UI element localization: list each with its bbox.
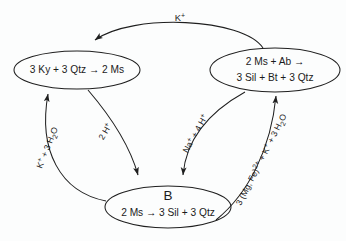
right-node-label-line2: 3 Sil + Bt + 3 Qtz: [236, 72, 313, 83]
svg-text:3 (Mg, Fe)2+ + K+ + 3 H2O: 3 (Mg, Fe)2+ + K+ + 3 H2O: [233, 111, 290, 207]
svg-text:2 H+: 2 H+: [95, 121, 114, 142]
svg-text:Na+ + 4 H+: Na+ + 4 H+: [179, 112, 210, 155]
label-k-3h2o: K+ + 3 H2O: [33, 125, 61, 170]
arrow-k-3h2o: [46, 94, 106, 201]
svg-text:K+ + 3 H2O: K+ + 3 H2O: [33, 125, 61, 170]
label-k-plus-sup: +: [181, 12, 185, 19]
label-k-plus: K+: [175, 12, 185, 24]
label-na-4h: Na+ + 4 H+: [179, 112, 210, 155]
label-2h-plus: 2 H+: [95, 121, 114, 142]
arrow-k-plus: [95, 22, 263, 48]
node-right[interactable]: 2 Ms + Ab → 3 Sil + Bt + 3 Qtz: [210, 48, 340, 92]
right-node-label-line1: 2 Ms + Ab →: [246, 56, 305, 67]
node-left[interactable]: 3 Ky + 3 Qtz → 2 Ms: [14, 51, 140, 89]
label-mgfe-k-3h2o: 3 (Mg, Fe)2+ + K+ + 3 H2O: [233, 111, 290, 207]
left-node-label: 3 Ky + 3 Qtz → 2 Ms: [30, 64, 124, 75]
right-node-ellipse: [210, 48, 340, 92]
node-bottom[interactable]: B 2 Ms → 3 Sil + 3 Qtz: [105, 186, 231, 228]
bottom-node-title: B: [163, 188, 172, 203]
bottom-node-label: 2 Ms → 3 Sil + 3 Qtz: [121, 207, 215, 218]
reaction-path-diagram: 3 Ky + 3 Qtz → 2 Ms 2 Ms + Ab → 3 Sil + …: [0, 0, 346, 241]
arrow-2h-plus: [88, 90, 138, 175]
svg-text:K+: K+: [175, 12, 185, 24]
